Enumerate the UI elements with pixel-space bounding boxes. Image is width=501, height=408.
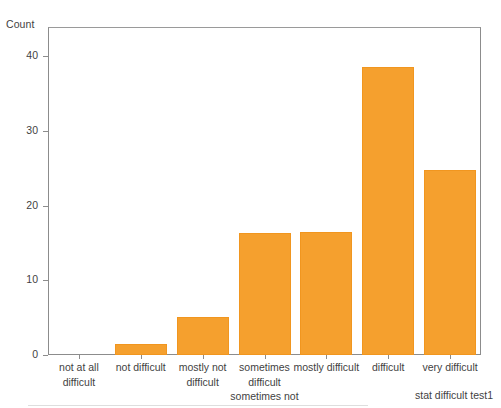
bar xyxy=(424,170,476,355)
y-tick-label: 40 xyxy=(26,49,38,61)
x-tick-mark xyxy=(450,355,451,359)
bar xyxy=(239,233,291,355)
y-tick-label: 20 xyxy=(26,199,38,211)
x-tick-label: mostly difficult xyxy=(291,360,361,375)
x-tick-mark xyxy=(326,355,327,359)
bar-chart: Count 010203040 not at all difficultnot … xyxy=(0,0,501,408)
x-tick-label: sometimes difficult sometimes not xyxy=(230,360,300,404)
x-tick-label: difficult xyxy=(353,360,423,375)
bar xyxy=(362,67,414,355)
y-axis-title: Count xyxy=(6,18,35,30)
x-tick-label: mostly not difficult xyxy=(168,360,238,389)
page-edge-artifact xyxy=(28,405,368,406)
x-axis-title: stat difficult test1 xyxy=(415,389,493,401)
y-tick-mark xyxy=(43,56,48,57)
y-tick-mark xyxy=(43,355,48,356)
y-tick-mark xyxy=(43,206,48,207)
x-tick-label: not at all difficult xyxy=(44,360,114,389)
y-tick-label: 10 xyxy=(26,273,38,285)
x-tick-mark xyxy=(388,355,389,359)
x-tick-label: not difficult xyxy=(106,360,176,375)
bar xyxy=(115,344,167,355)
x-tick-mark xyxy=(79,355,80,359)
y-tick-mark xyxy=(43,131,48,132)
y-tick-label: 30 xyxy=(26,124,38,136)
x-tick-label: very difficult xyxy=(415,360,485,375)
y-tick-label: 0 xyxy=(32,348,38,360)
x-tick-mark xyxy=(265,355,266,359)
y-tick-mark xyxy=(43,280,48,281)
x-tick-mark xyxy=(141,355,142,359)
x-tick-mark xyxy=(203,355,204,359)
bar xyxy=(300,232,352,355)
bar xyxy=(177,317,229,355)
